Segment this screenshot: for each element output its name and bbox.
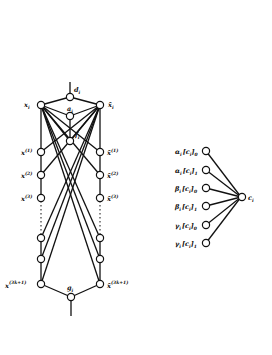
- node-x-b: [37, 255, 44, 262]
- edge-d-xbar: [70, 97, 100, 105]
- node-x-last: [37, 280, 44, 287]
- node-xbar2: [96, 171, 103, 178]
- node-g: [67, 293, 74, 300]
- label-a: ai: [67, 105, 73, 114]
- label-d: di: [74, 86, 81, 95]
- node-in0: [202, 147, 209, 154]
- label-g: gi: [67, 284, 74, 293]
- node-xbar: [96, 101, 103, 108]
- node-in5: [202, 239, 209, 246]
- node-x: [37, 101, 44, 108]
- label-in2: βi[ci]0: [174, 185, 198, 194]
- edge-xbarlast-g: [71, 284, 100, 297]
- right-clause-diagram: αi[ci]0 αi[ci]1 βi[ci]0 βi[ci]1 γi[ci]0 …: [174, 147, 254, 248]
- node-x1: [37, 148, 44, 155]
- node-x-a: [37, 234, 44, 241]
- label-xbar-last: x̄(3k+1): [106, 280, 128, 290]
- label-f: fi: [74, 131, 80, 140]
- figure-canvas: di xi x̄i ai fi x(1) x(2) x(3) x(3k+1) x…: [0, 0, 272, 355]
- label-in4: γi[ci]0: [175, 222, 198, 231]
- node-x2: [37, 171, 44, 178]
- node-in1: [202, 166, 209, 173]
- label-in5: γi[ci]1: [175, 240, 197, 249]
- node-in4: [202, 221, 209, 228]
- node-hub: [238, 193, 245, 200]
- node-xbar-a: [96, 234, 103, 241]
- node-xbar3: [96, 194, 103, 201]
- node-xbar1: [96, 148, 103, 155]
- node-in3: [202, 202, 209, 209]
- label-xbar: x̄i: [107, 101, 114, 110]
- label-in0: αi[ci]0: [175, 148, 199, 157]
- edge-d-x: [41, 97, 70, 105]
- node-d: [66, 93, 73, 100]
- label-xbar2: x̄(2): [106, 171, 118, 180]
- label-x-last: x(3k+1): [4, 280, 26, 290]
- label-in3: βi[ci]1: [174, 203, 197, 212]
- label-in1: αi[ci]1: [175, 167, 198, 176]
- node-xbar-last: [96, 280, 103, 287]
- label-x2: x(2): [20, 171, 32, 180]
- node-in2: [202, 184, 209, 191]
- label-x3: x(3): [20, 194, 32, 203]
- label-xbar3: x̄(3): [106, 194, 118, 203]
- label-hub: ci: [248, 194, 254, 203]
- node-f: [66, 137, 73, 144]
- node-xbar-b: [96, 255, 103, 262]
- label-xbar1: x̄(1): [106, 148, 118, 157]
- label-x: xi: [23, 101, 30, 110]
- left-gadget-diagram: di xi x̄i ai fi x(1) x(2) x(3) x(3k+1) x…: [4, 82, 128, 316]
- label-x1: x(1): [20, 148, 32, 157]
- node-x3: [37, 194, 44, 201]
